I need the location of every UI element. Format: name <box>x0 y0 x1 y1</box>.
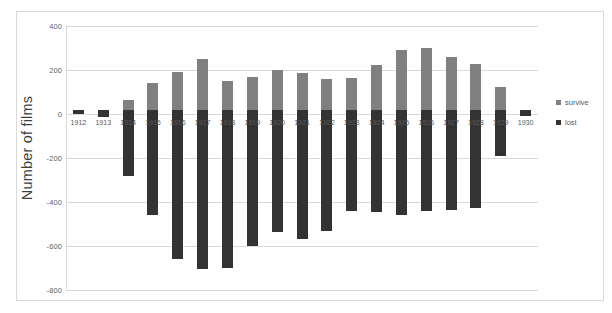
bar-segment-lost-cap[interactable] <box>272 110 283 114</box>
bar-segment-lost[interactable] <box>247 114 258 246</box>
bar-segment-survive[interactable] <box>247 77 258 114</box>
bar-segment-survive[interactable] <box>396 50 407 114</box>
x-tick-label: 1915 <box>141 118 166 127</box>
x-tick-label: 1925 <box>389 118 414 127</box>
bar-segment-lost[interactable] <box>346 114 357 211</box>
legend-item[interactable]: survive <box>556 98 606 107</box>
bar-segment-lost[interactable] <box>421 114 432 211</box>
x-tick-label: 1923 <box>339 118 364 127</box>
x-tick-label: 1926 <box>414 118 439 127</box>
bar-segment-lost-cap[interactable] <box>247 110 258 114</box>
x-tick-label: 1918 <box>215 118 240 127</box>
y-axis-tick-labels: 4002000-200-400-600-800 <box>12 26 62 290</box>
bar-segment-lost[interactable] <box>321 114 332 231</box>
bar-segment-survive[interactable] <box>346 78 357 114</box>
bar-group[interactable] <box>396 26 407 290</box>
x-tick-label: 1929 <box>488 118 513 127</box>
chart-figure: Number of films 4002000-200-400-600-800 … <box>0 0 612 313</box>
bar-segment-lost-cap[interactable] <box>297 110 308 114</box>
bar-group[interactable] <box>297 26 308 290</box>
bar-segment-lost[interactable] <box>172 114 183 259</box>
bar-segment-lost-cap[interactable] <box>520 110 531 114</box>
bar-group[interactable] <box>446 26 457 290</box>
bar-group[interactable] <box>520 26 531 290</box>
bar-group[interactable] <box>495 26 506 290</box>
bar-segment-lost[interactable] <box>272 114 283 232</box>
bar-segment-lost-cap[interactable] <box>396 110 407 114</box>
chart-legend: survivelost <box>556 98 606 138</box>
bar-group[interactable] <box>247 26 258 290</box>
bar-segment-lost[interactable] <box>520 114 531 116</box>
x-tick-label: 1917 <box>190 118 215 127</box>
bar-group[interactable] <box>197 26 208 290</box>
legend-swatch-icon <box>556 120 561 125</box>
bar-group[interactable] <box>371 26 382 290</box>
gridline--800 <box>66 290 538 291</box>
bar-segment-lost-cap[interactable] <box>172 110 183 114</box>
bar-segment-survive[interactable] <box>421 48 432 114</box>
bar-segment-lost[interactable] <box>147 114 158 215</box>
bar-group[interactable] <box>123 26 134 290</box>
bar-segment-survive[interactable] <box>446 57 457 114</box>
bar-segment-lost[interactable] <box>470 114 481 208</box>
bar-segment-lost[interactable] <box>297 114 308 239</box>
x-tick-label: 1919 <box>240 118 265 127</box>
y-tick-label: -800 <box>18 286 62 295</box>
bar-segment-lost-cap[interactable] <box>321 110 332 114</box>
y-tick-label: 0 <box>18 110 62 119</box>
bar-segment-lost[interactable] <box>371 114 382 212</box>
legend-swatch-icon <box>556 100 561 105</box>
bar-segment-lost-cap[interactable] <box>222 110 233 114</box>
bar-segment-lost-cap[interactable] <box>147 110 158 114</box>
bar-group[interactable] <box>321 26 332 290</box>
x-tick-label: 1921 <box>290 118 315 127</box>
bar-segment-survive[interactable] <box>470 64 481 114</box>
bar-segment-lost[interactable] <box>396 114 407 215</box>
bar-segment-lost-cap[interactable] <box>470 110 481 114</box>
bar-segment-survive[interactable] <box>172 72 183 114</box>
plot-area: 1912191319141915191619171918191919201921… <box>66 26 538 290</box>
bar-segment-lost-cap[interactable] <box>73 110 84 114</box>
legend-item[interactable]: lost <box>556 118 606 127</box>
bar-group[interactable] <box>272 26 283 290</box>
x-tick-label: 1922 <box>314 118 339 127</box>
bar-segment-survive[interactable] <box>197 59 208 114</box>
bar-group[interactable] <box>421 26 432 290</box>
bar-segment-lost-cap[interactable] <box>495 110 506 114</box>
bar-segment-lost[interactable] <box>197 114 208 269</box>
y-tick-label: 400 <box>18 22 62 31</box>
x-tick-label: 1928 <box>463 118 488 127</box>
bar-group[interactable] <box>147 26 158 290</box>
bar-segment-lost[interactable] <box>98 114 109 117</box>
x-tick-label: 1924 <box>364 118 389 127</box>
bar-segment-lost-cap[interactable] <box>98 110 109 114</box>
bar-group[interactable] <box>470 26 481 290</box>
y-tick-label: -600 <box>18 242 62 251</box>
bar-segment-survive[interactable] <box>371 65 382 114</box>
bar-segment-lost-cap[interactable] <box>197 110 208 114</box>
bar-segment-lost[interactable] <box>446 114 457 210</box>
bar-group[interactable] <box>222 26 233 290</box>
bar-segment-lost[interactable] <box>222 114 233 268</box>
x-tick-label: 1920 <box>265 118 290 127</box>
x-tick-label: 1927 <box>439 118 464 127</box>
y-tick-label: -200 <box>18 154 62 163</box>
x-tick-label: 1930 <box>513 118 538 127</box>
y-tick-label: -400 <box>18 198 62 207</box>
bar-segment-lost-cap[interactable] <box>421 110 432 114</box>
x-tick-label: 1916 <box>165 118 190 127</box>
bar-segment-lost-cap[interactable] <box>123 110 134 114</box>
x-tick-label: 1914 <box>116 118 141 127</box>
bar-segment-lost-cap[interactable] <box>446 110 457 114</box>
bar-group[interactable] <box>346 26 357 290</box>
bar-group[interactable] <box>73 26 84 290</box>
bar-segment-survive[interactable] <box>297 73 308 114</box>
bar-segment-lost-cap[interactable] <box>371 110 382 114</box>
bar-segment-lost-cap[interactable] <box>346 110 357 114</box>
x-tick-label: 1912 <box>66 118 91 127</box>
bar-segment-survive[interactable] <box>321 79 332 114</box>
bar-group[interactable] <box>172 26 183 290</box>
bar-group[interactable] <box>98 26 109 290</box>
legend-label: lost <box>565 118 577 127</box>
bar-segment-survive[interactable] <box>272 70 283 114</box>
